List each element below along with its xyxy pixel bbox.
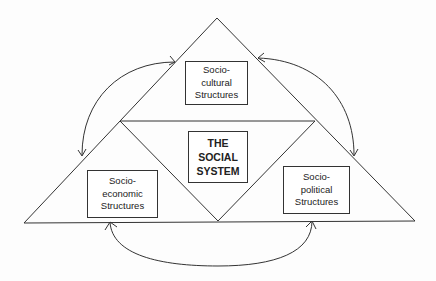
label-line: Socio- bbox=[203, 64, 230, 77]
label-line: Socio- bbox=[109, 175, 136, 188]
arc-top-left bbox=[82, 62, 175, 155]
label-line: Socio- bbox=[303, 171, 330, 184]
socio-political-box: Socio- political Structures bbox=[283, 166, 350, 214]
label-line: political bbox=[301, 184, 333, 197]
socio-economic-box: Socio- economic Structures bbox=[87, 170, 158, 218]
label-line: Structures bbox=[295, 196, 338, 209]
label-line: economic bbox=[102, 188, 143, 201]
socio-cultural-box: Socio- cultural Structures bbox=[185, 61, 248, 105]
arc-top-right bbox=[258, 58, 354, 155]
label-line: Structures bbox=[195, 89, 238, 102]
arc-bottom bbox=[110, 221, 312, 266]
label-line: Structures bbox=[101, 200, 144, 213]
social-system-diagram: Socio- cultural Structures THE SOCIAL SY… bbox=[0, 0, 436, 281]
social-system-box: THE SOCIAL SYSTEM bbox=[188, 131, 248, 183]
label-line: cultural bbox=[201, 77, 232, 90]
label-line: SYSTEM bbox=[196, 164, 239, 178]
label-line: THE bbox=[208, 136, 229, 150]
label-line: SOCIAL bbox=[198, 150, 238, 164]
